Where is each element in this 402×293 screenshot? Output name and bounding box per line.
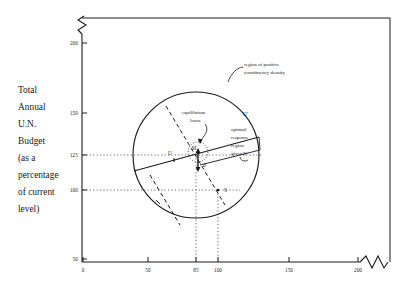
label-d: d <box>203 162 206 168</box>
annotation-equilibrium-leader <box>201 124 207 140</box>
y-axis-label-line-2: Annual <box>18 102 46 112</box>
annotation-optimal-region-line4: given U <box>231 151 247 156</box>
x-tick-label-85: 85 <box>193 267 199 273</box>
annotation-optimal-region-line3: region <box>231 143 244 148</box>
annotation-optimal-region: optimal response region given U <box>231 127 249 161</box>
y-axis-label-line-8: level) <box>18 204 39 215</box>
circle-ticks <box>156 200 160 204</box>
annotation-optimal-region-line1: optimal <box>231 127 247 132</box>
optimal-response-band-line <box>200 150 260 165</box>
label-S: S <box>224 187 227 193</box>
y-tick-label-50: 50 <box>73 256 79 262</box>
y-axis-label-line-6: percentage <box>18 170 59 180</box>
diagram-svg: 200 150 125 100 50 0 50 85 100 150 200 T… <box>0 0 402 293</box>
x-tick-label-150: 150 <box>285 267 293 273</box>
y-tick-label-125: 125 <box>70 152 78 158</box>
annotation-region-positive: region of positive constituency density <box>228 62 285 82</box>
y-tick-label-100: 100 <box>70 187 78 193</box>
annotation-region-positive-line2: constituency density <box>244 70 285 75</box>
guide-lines <box>83 155 263 262</box>
x-tick-label-50: 50 <box>145 267 151 273</box>
y-axis-label-line-5: (as a <box>18 153 36 164</box>
annotation-region-positive-line1: region of positive <box>244 62 280 67</box>
x-ticks <box>83 257 358 262</box>
annotation-optimal-region-line2: response <box>231 135 249 140</box>
point-S-marker <box>217 189 220 192</box>
plot-frame <box>82 18 390 262</box>
annotation-optimal-region-leader <box>240 157 248 161</box>
x-axis-break-icon <box>360 256 388 268</box>
figure-container: 200 150 125 100 50 0 50 85 100 150 200 T… <box>0 0 402 293</box>
y-tick-label-150: 150 <box>70 110 78 116</box>
label-M: M <box>192 145 197 151</box>
y-axis-label-line-3: U.N. <box>18 119 36 129</box>
y-axis-label-line-4: Budget <box>18 136 45 146</box>
x-tick-label-0: 0 <box>82 267 85 273</box>
x-tick-label-100: 100 <box>214 267 222 273</box>
annotation-equilibrium-line1: equilibrium <box>182 110 205 115</box>
label-U-prime: U′ <box>243 111 248 117</box>
y-axis-label-line-7: of current <box>18 187 55 197</box>
x-axis <box>82 256 388 268</box>
label-U: U <box>168 150 172 156</box>
u-prime-line-lower <box>150 175 180 225</box>
x-tick-label-200: 200 <box>354 267 362 273</box>
point-M-marker <box>197 151 200 154</box>
y-axis-label: Total Annual U.N. Budget (as a percentag… <box>18 85 59 215</box>
y-ticks <box>82 43 87 259</box>
y-axis <box>78 16 86 262</box>
annotation-region-positive-leader <box>228 67 243 82</box>
y-tick-label-200: 200 <box>70 40 78 46</box>
annotation-equilibrium-line2: locus <box>190 118 201 123</box>
y-axis-break-icon <box>78 16 86 34</box>
y-axis-label-line-1: Total <box>18 85 38 95</box>
